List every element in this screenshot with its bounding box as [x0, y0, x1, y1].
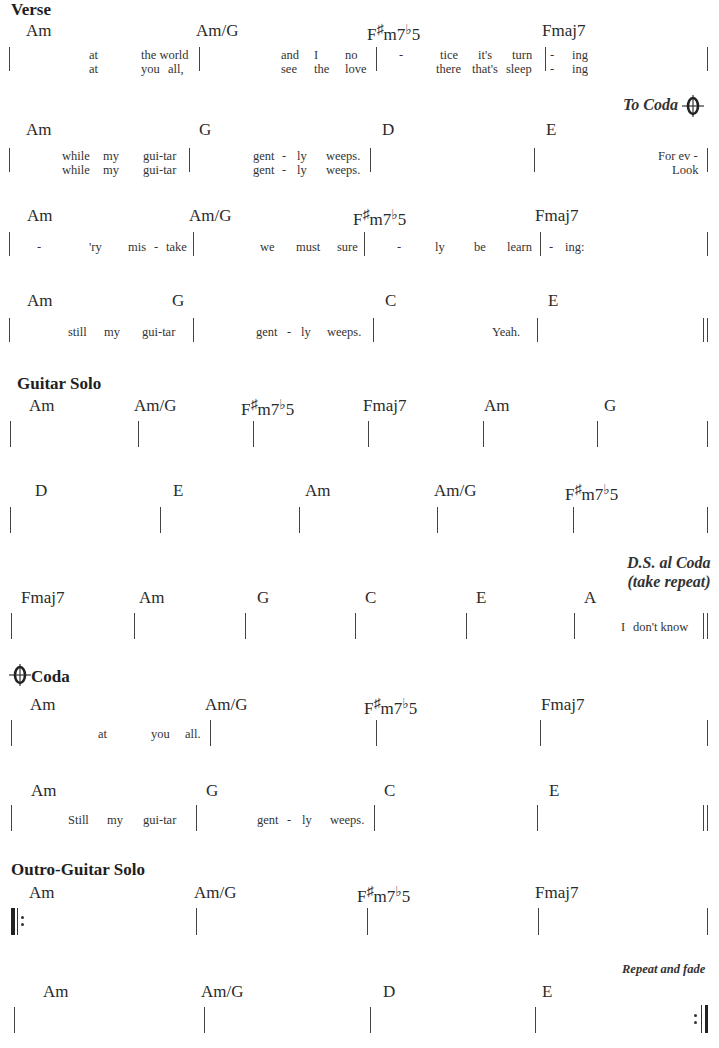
chord-fsharp-m7b5: F♯m7♭5: [364, 695, 417, 719]
lyric: at: [89, 48, 98, 62]
lyric: learn: [507, 240, 532, 254]
repeat-end-sign: [694, 1005, 708, 1033]
chord-am: Am: [29, 396, 55, 416]
lyric: gent: [256, 325, 278, 339]
lyric: Still: [68, 813, 89, 827]
barline: [355, 613, 356, 639]
section-title-guitar-solo: Guitar Solo: [17, 374, 101, 394]
lyric: -: [549, 240, 553, 254]
chord-fsharp-m7b5: F♯m7♭5: [565, 481, 618, 505]
lyric: 'ry: [89, 240, 102, 254]
chord-am: Am: [26, 120, 52, 140]
lyric: -: [37, 240, 41, 254]
section-title-verse: Verse: [11, 0, 51, 20]
chord-c: C: [384, 781, 395, 801]
lyric: gui-tar: [142, 325, 175, 339]
barline: [199, 47, 200, 71]
lyric: turn: [512, 48, 532, 62]
chord-fmaj7: Fmaj7: [535, 206, 578, 226]
lyric: love: [345, 62, 367, 76]
lyric: don't know: [633, 620, 688, 634]
final-double-barline: [703, 318, 708, 342]
lyric: I: [621, 620, 625, 634]
barline: [253, 421, 254, 447]
lyric: still: [68, 325, 87, 339]
lyric: ly: [435, 240, 445, 254]
lyric: For ev -: [658, 149, 698, 163]
ds-al-coda-label: D.S. al Coda: [627, 553, 711, 572]
lyric: Look: [672, 163, 698, 177]
chord-e: E: [542, 982, 552, 1002]
chord-am: Am: [30, 695, 56, 715]
barline: [376, 720, 377, 746]
lyric: -: [282, 149, 286, 163]
barline: [9, 318, 10, 342]
lyric: you: [141, 62, 160, 76]
barline: [373, 318, 374, 342]
barline: [160, 507, 161, 533]
barline: [537, 318, 538, 342]
final-double-barline: [703, 805, 708, 831]
lyric: ly: [297, 163, 307, 177]
chord-d: D: [35, 481, 47, 501]
lyric: -: [550, 62, 554, 76]
barline: [483, 421, 484, 447]
barline: [540, 720, 541, 746]
chord-fmaj7: Fmaj7: [542, 21, 585, 41]
lyric: at: [89, 62, 98, 76]
barline: [10, 421, 11, 447]
lyric: while: [62, 149, 90, 163]
repeat-and-fade-marking: Repeat and fade: [622, 962, 705, 977]
lyric: gent: [253, 149, 275, 163]
chord-e: E: [549, 781, 559, 801]
take-repeat-label: (take repeat): [627, 572, 711, 591]
lyric: see: [281, 62, 297, 76]
lyric: -: [287, 325, 291, 339]
chord-fsharp-m7b5: F♯m7♭5: [367, 21, 420, 45]
chord-am-g: Am/G: [196, 21, 239, 41]
chord-c: C: [365, 588, 376, 608]
to-coda-label: To Coda: [623, 96, 678, 113]
lyric: -: [287, 813, 291, 827]
lyric: -: [282, 163, 286, 177]
chord-am: Am: [43, 982, 69, 1002]
to-coda-marking: To Coda: [623, 95, 704, 117]
thick-barline: [705, 1005, 709, 1033]
chord-fsharp-m7b5: F♯m7♭5: [241, 396, 294, 420]
chord-am: Am: [305, 481, 331, 501]
barline: [535, 1007, 536, 1033]
lyric: we: [260, 240, 275, 254]
repeat-dot: [694, 1021, 697, 1024]
barline: [9, 47, 10, 71]
lyric: that's: [472, 62, 498, 76]
barline: [538, 908, 539, 935]
section-title-outro-guitar-solo: Outro-Guitar Solo: [11, 860, 145, 880]
chord-g: G: [257, 588, 269, 608]
chord-am-g: Am/G: [434, 481, 477, 501]
barline: [534, 148, 535, 172]
barline: [707, 421, 708, 447]
lyric: ing: [572, 48, 588, 62]
repeat-dot: [694, 1014, 697, 1017]
barline: [245, 613, 246, 639]
chord-g: G: [199, 120, 211, 140]
barline: [466, 613, 467, 639]
chord-am: Am: [27, 206, 53, 226]
chord-g: G: [206, 781, 218, 801]
barline: [707, 47, 708, 71]
chord-g: G: [172, 291, 184, 311]
repeat-dot: [21, 916, 24, 919]
lyric: there: [436, 62, 461, 76]
lyric: all.: [185, 727, 201, 741]
chord-am-g: Am/G: [194, 883, 237, 903]
barline: [299, 507, 300, 533]
lyric: my: [103, 149, 119, 163]
lyric: no: [345, 48, 358, 62]
coda-icon: [682, 95, 704, 117]
barline: [193, 318, 194, 342]
lyric: ing: [572, 62, 588, 76]
lyric: it's: [478, 48, 492, 62]
lyric: -: [399, 48, 403, 62]
chord-e: E: [548, 291, 558, 311]
lyric: -: [550, 48, 554, 62]
